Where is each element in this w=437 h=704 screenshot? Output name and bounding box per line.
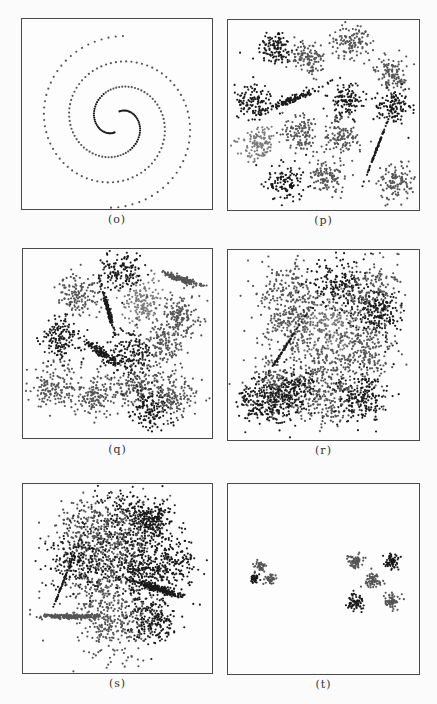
plot-frame-r	[227, 249, 420, 441]
caption-q: (q)	[22, 443, 213, 456]
cluster-scatter-r	[228, 250, 419, 440]
caption-r: (r)	[227, 444, 420, 457]
cluster-scatter-s	[23, 484, 212, 673]
cluster-scatter-q	[23, 249, 212, 438]
plot-frame-o	[21, 18, 213, 210]
caption-t: (t)	[227, 678, 420, 691]
plot-frame-t	[227, 483, 420, 675]
plot-frame-q	[22, 248, 213, 439]
spiral-scatter	[22, 19, 212, 209]
caption-o: (o)	[21, 213, 213, 226]
cluster-scatter-p	[228, 20, 419, 210]
cluster-scatter-t	[228, 484, 419, 674]
plot-frame-s	[22, 483, 213, 674]
caption-p: (p)	[227, 214, 420, 227]
caption-s: (s)	[22, 677, 213, 690]
plot-frame-p	[227, 19, 420, 211]
